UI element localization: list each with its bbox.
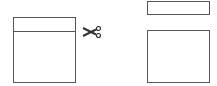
remaining-rectangle	[147, 30, 210, 83]
scissors-icon	[82, 26, 102, 38]
original-square	[13, 17, 76, 83]
cut-line	[14, 31, 75, 32]
cut-strip	[147, 1, 210, 15]
